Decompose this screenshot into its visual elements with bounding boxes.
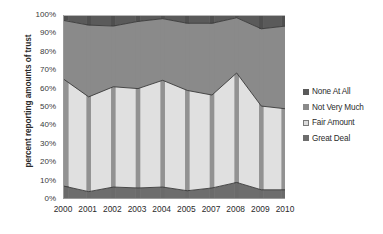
legend-item-label: Fair Amount [312, 118, 355, 127]
y-axis-tick-label: 90% [26, 29, 56, 37]
category-band [185, 15, 190, 199]
category-band [234, 15, 239, 199]
band-great-deal [234, 182, 239, 199]
legend-item-label: Great Deal [312, 134, 350, 143]
y-axis-tick-label: 30% [26, 140, 56, 148]
legend-item[interactable]: Fair Amount [303, 115, 383, 131]
legend-item-label: None At All [312, 87, 350, 96]
y-axis-tick-label: 50% [26, 103, 56, 111]
x-axis-tick-label: 2008 [224, 205, 248, 214]
legend-item-label: Not Very Much [312, 103, 364, 112]
y-axis-tick-label: 60% [26, 85, 56, 93]
category-band [86, 15, 91, 199]
category-band [259, 15, 264, 199]
y-axis-tick-label: 0% [26, 195, 56, 203]
band-great-deal [86, 192, 91, 199]
y-axis-tick-label: 80% [26, 48, 56, 56]
legend-item[interactable]: None At All [303, 84, 383, 100]
x-axis-tick-label: 2009 [248, 205, 272, 214]
band-great-deal [64, 186, 69, 199]
y-axis-tick-label: 40% [26, 121, 56, 129]
legend-swatch-icon [303, 135, 309, 141]
band-none-at-all [185, 15, 190, 23]
band-great-deal [259, 190, 264, 199]
legend-item[interactable]: Not Very Much [303, 100, 383, 116]
y-axis-tick-labels: 0%10%20%30%40%50%60%70%80%90%100% [24, 0, 56, 234]
band-great-deal [210, 188, 215, 199]
x-axis-tick-label: 2002 [100, 205, 124, 214]
x-axis-tick-label: 2001 [76, 205, 100, 214]
category-band [64, 15, 69, 199]
category-band [281, 15, 285, 199]
y-axis-tick-label: 10% [26, 177, 56, 185]
legend-swatch-icon [303, 120, 309, 126]
legend: None At AllNot Very MuchFair AmountGreat… [303, 84, 383, 146]
x-axis-tick-label: 2005 [174, 205, 198, 214]
band-none-at-all [281, 15, 285, 26]
band-great-deal [160, 187, 165, 199]
x-axis-tick-label: 2004 [150, 205, 174, 214]
x-axis-tick-label: 2007 [199, 205, 223, 214]
band-great-deal [185, 191, 190, 199]
y-axis-tick-label: 70% [26, 66, 56, 74]
band-great-deal [111, 187, 116, 199]
y-axis-tick-label: 100% [26, 11, 56, 19]
legend-swatch-icon [303, 89, 309, 95]
y-axis-tick-label: 20% [26, 158, 56, 166]
category-band [160, 15, 165, 199]
legend-swatch-icon [303, 104, 309, 110]
band-none-at-all [210, 15, 215, 23]
x-axis-tick-label: 2010 [273, 205, 297, 214]
band-great-deal [136, 188, 141, 199]
category-band [210, 15, 215, 199]
band-none-at-all [111, 15, 116, 26]
x-axis-tick-label: 2003 [125, 205, 149, 214]
band-great-deal [281, 190, 285, 199]
legend-item[interactable]: Great Deal [303, 131, 383, 147]
plot-area [63, 15, 285, 199]
chart-container: percent reporting amounts of trust 0%10%… [0, 0, 383, 234]
band-none-at-all [86, 15, 91, 25]
category-band [136, 15, 141, 199]
band-none-at-all [259, 15, 264, 29]
area-series-group [64, 15, 285, 199]
stacked-area-svg [64, 15, 285, 199]
category-band [111, 15, 116, 199]
x-axis-tick-label: 2000 [51, 205, 75, 214]
